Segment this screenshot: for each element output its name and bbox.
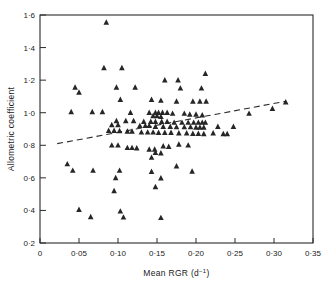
data-point [111, 188, 117, 193]
data-point [178, 85, 184, 90]
data-point [270, 106, 276, 111]
data-point [159, 119, 165, 124]
data-point [146, 110, 152, 115]
x-tick-label-7: 0·35 [305, 249, 322, 258]
data-point [148, 119, 154, 124]
data-point [90, 167, 96, 172]
data-point [182, 110, 188, 115]
data-point [119, 65, 125, 70]
data-point [149, 97, 155, 102]
data-point [139, 129, 145, 134]
data-point [150, 129, 156, 134]
y-tick-label-0: 0·2 [23, 239, 35, 248]
data-point [158, 175, 164, 180]
data-point [196, 130, 202, 135]
data-point [231, 123, 237, 128]
data-point [184, 130, 190, 135]
data-point [118, 97, 124, 102]
data-point [164, 119, 170, 124]
data-point [153, 123, 159, 128]
data-point [201, 131, 207, 136]
data-point [114, 84, 120, 89]
data-point [141, 119, 147, 124]
data-point [199, 85, 205, 90]
data-point [246, 110, 252, 115]
data-point [164, 110, 170, 115]
data-point [123, 118, 129, 123]
data-point [176, 141, 182, 146]
data-point [185, 142, 191, 147]
data-point [132, 84, 138, 89]
trend-line [57, 101, 286, 143]
data-point [117, 167, 123, 172]
data-point [146, 146, 152, 151]
data-point [153, 119, 159, 124]
data-point [111, 128, 117, 133]
data-point [203, 71, 209, 76]
data-point [191, 119, 197, 124]
x-tick-label-2: 0·10 [110, 249, 127, 258]
y-tick-label-7: 1·6 [23, 11, 35, 20]
data-point [197, 98, 203, 103]
data-point [187, 111, 193, 116]
data-point [104, 19, 110, 24]
y-axis-title: Allometric coefficient [6, 86, 16, 171]
data-point [176, 130, 182, 135]
data-point [145, 129, 151, 134]
data-point [152, 146, 158, 151]
data-point [158, 215, 164, 220]
y-tick-label-3: 0·8 [23, 141, 35, 150]
data-point [76, 207, 82, 212]
data-point [158, 97, 164, 102]
scatter-plot-figure: 00·050·100·150·200·250·300·350·20·40·60·… [0, 0, 334, 283]
data-point [65, 161, 71, 166]
x-axis-title: Mean RGR (d−1) [143, 268, 209, 278]
y-tick-label-1: 0·4 [23, 206, 35, 215]
data-point [88, 214, 94, 219]
data-point [166, 143, 172, 148]
data-point [76, 89, 82, 94]
x-tick-label-3: 0·15 [149, 249, 166, 258]
data-point [114, 118, 120, 123]
data-point [109, 142, 115, 147]
data-point [156, 129, 162, 134]
data-point [121, 214, 127, 219]
data-point [153, 184, 159, 189]
y-tick-label-6: 1·4 [23, 44, 35, 53]
data-point [149, 169, 155, 174]
data-point [174, 163, 180, 168]
data-point [215, 123, 221, 128]
y-tick-label-5: 1·2 [23, 76, 35, 85]
data-point [203, 98, 209, 103]
data-point [68, 109, 74, 114]
data-point [129, 128, 135, 133]
plot-canvas: 00·050·100·150·200·250·300·350·20·40·60·… [0, 0, 334, 283]
data-point [129, 145, 135, 150]
data-point [158, 150, 164, 155]
data-point [128, 110, 134, 115]
data-point [109, 122, 115, 127]
x-tick-label-1: 0·05 [71, 249, 88, 258]
x-tick-label-5: 0·25 [227, 249, 244, 258]
data-point [168, 129, 174, 134]
data-point [134, 145, 140, 150]
data-point [179, 119, 185, 124]
data-point [170, 110, 176, 115]
data-point [125, 145, 131, 150]
data-point [190, 130, 196, 135]
data-point [201, 124, 207, 129]
x-tick-label-4: 0·20 [188, 249, 205, 258]
data-point [115, 142, 121, 147]
data-point [162, 129, 168, 134]
y-tick-label-2: 0·6 [23, 174, 35, 183]
data-point [106, 128, 112, 133]
data-point [118, 208, 124, 213]
data-point [189, 168, 195, 173]
data-point [125, 128, 131, 133]
data-point [149, 154, 155, 159]
y-tick-label-4: 1·0 [23, 109, 35, 118]
data-point [193, 111, 199, 116]
x-tick-label-0: 0 [38, 249, 43, 258]
data-point [72, 84, 78, 89]
data-point [131, 118, 137, 123]
